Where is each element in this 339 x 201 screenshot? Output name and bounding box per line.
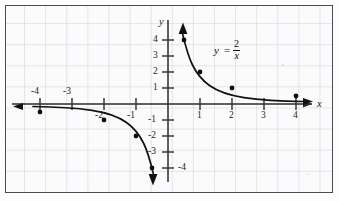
point-neg4-neg0.5: [38, 110, 43, 115]
equation-numerator: 2: [233, 39, 240, 50]
ytick-label-3: 3: [153, 51, 158, 61]
scan-artifact: [306, 174, 309, 175]
ytick-label-2: 2: [153, 67, 158, 77]
ytick-label-1: 1: [153, 83, 158, 93]
curve-arrow-up: [179, 23, 188, 35]
equation-fraction: 2 x: [233, 39, 240, 61]
point-1-2: [198, 70, 203, 75]
plot-frame: -4 -3 -2 -1 1 2 3 4 1 2 3 4 -1 -2 -3 -4 …: [5, 5, 333, 193]
scan-artifact: [282, 64, 284, 66]
graph-plot: [6, 6, 333, 193]
point-neg0.5-neg4: [150, 166, 155, 171]
axes-group: [12, 20, 312, 182]
point-0.5-4: [182, 38, 187, 43]
ytick-label-neg2: -2: [148, 131, 156, 141]
xtick-label-4: 4: [293, 111, 298, 121]
xtick-label-1: 1: [197, 111, 202, 121]
xtick-label-neg1: -1: [127, 111, 135, 121]
point-neg1-neg2: [134, 134, 139, 139]
xtick-label-3: 3: [261, 111, 266, 121]
xtick-label-neg3: -3: [63, 87, 71, 97]
graph-figure: -4 -3 -2 -1 1 2 3 4 1 2 3 4 -1 -2 -3 -4 …: [0, 0, 339, 201]
ytick-label-neg4: -4: [178, 163, 186, 173]
point-4-0.5: [294, 94, 299, 99]
equation-denominator: x: [233, 51, 239, 62]
curve-arrow-down: [149, 174, 158, 186]
curve-branch-positive: [183, 34, 303, 101]
equation-annotation: y = 2 x: [214, 39, 240, 61]
x-axis-label: x: [317, 99, 322, 110]
xtick-label-2: 2: [229, 111, 234, 121]
ytick-label-4: 4: [153, 35, 158, 45]
xtick-label-neg2: -2: [95, 111, 103, 121]
y-axis-label: y: [159, 17, 164, 28]
xtick-label-neg4: -4: [31, 87, 39, 97]
point-2-1: [230, 86, 235, 91]
equation-lhs: y: [214, 44, 219, 56]
curve-branch-negative: [33, 107, 153, 174]
equation-equals: =: [224, 44, 230, 56]
ytick-label-neg1: -1: [148, 115, 156, 125]
ytick-label-neg3: -3: [148, 147, 156, 157]
